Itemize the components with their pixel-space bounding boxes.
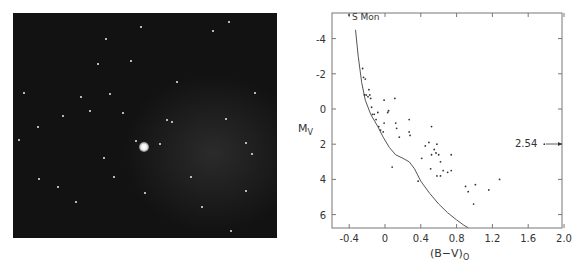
y-tick-label: 4 [320, 174, 326, 185]
color-magnitude-diagram: -0.400.40.81.21.62.0 -4-20246 S Mon 2.54… [290, 0, 580, 266]
star [97, 63, 99, 65]
star [130, 60, 132, 62]
y-axis-ticks: -4-20246 [316, 34, 562, 221]
nebula-haze [123, 73, 277, 233]
y-axis-label: MV [298, 122, 314, 137]
star [75, 201, 77, 203]
data-point [440, 161, 442, 163]
star [176, 81, 178, 83]
data-points [362, 68, 545, 205]
data-point [368, 89, 370, 91]
data-point [450, 170, 452, 172]
plot-frame [332, 13, 562, 228]
star [23, 92, 25, 94]
data-point [388, 110, 390, 112]
data-point [417, 180, 419, 182]
data-point [382, 131, 384, 133]
data-point [431, 126, 433, 128]
star [109, 93, 111, 95]
star [212, 30, 214, 32]
data-point [543, 143, 545, 145]
data-point [380, 129, 382, 131]
data-point [465, 186, 467, 188]
star [122, 112, 124, 114]
star [228, 21, 230, 23]
star [103, 157, 105, 159]
arrow-head-icon [558, 142, 562, 146]
bright-star-s-mon [139, 142, 149, 152]
annotation-s-mon: S Mon [352, 12, 380, 22]
data-point [433, 149, 435, 151]
star [245, 142, 247, 144]
data-point [440, 175, 442, 177]
data-point [499, 179, 501, 181]
data-point [373, 113, 375, 115]
star-field-photograph [13, 13, 277, 238]
data-point [438, 154, 440, 156]
star [89, 110, 91, 112]
x-tick-label: 0.8 [449, 233, 465, 244]
star [251, 153, 253, 155]
data-point [424, 145, 426, 147]
data-point [367, 96, 369, 98]
star [225, 118, 227, 120]
annotation-offscale: 2.54 [515, 138, 537, 149]
x-tick-label: 0.4 [413, 233, 429, 244]
data-point [364, 78, 366, 80]
data-point [363, 76, 365, 78]
data-point [378, 126, 380, 128]
data-point [435, 152, 437, 154]
x-tick-label: -0.4 [339, 233, 359, 244]
data-point [369, 94, 371, 96]
star [144, 192, 146, 194]
data-point [391, 166, 393, 168]
data-point [394, 98, 396, 100]
data-point [395, 122, 397, 124]
data-point [408, 119, 410, 121]
star [105, 38, 107, 40]
data-point [450, 154, 452, 156]
star [254, 92, 256, 94]
data-point [362, 68, 364, 70]
data-point [387, 112, 389, 114]
data-point [436, 143, 438, 145]
s-mon-point [348, 14, 350, 16]
star [135, 140, 137, 142]
data-point [383, 99, 385, 101]
x-tick-label: 2.0 [556, 233, 572, 244]
x-axis-label: (B−V)O [430, 247, 469, 262]
data-point [370, 98, 372, 100]
star [230, 230, 232, 232]
data-point [488, 189, 490, 191]
star [57, 186, 59, 188]
data-point [428, 142, 430, 144]
x-axis-ticks: -0.400.40.81.21.62.0 [339, 13, 572, 244]
zams-curve [356, 30, 469, 228]
star [166, 119, 168, 121]
star [80, 96, 82, 98]
star [245, 190, 247, 192]
data-point [375, 119, 377, 121]
y-tick-label: 6 [320, 210, 326, 221]
x-tick-label: 1.2 [484, 233, 500, 244]
y-tick-label: 2 [320, 139, 326, 150]
data-point [467, 191, 469, 193]
data-point [442, 170, 444, 172]
data-point [436, 175, 438, 177]
data-point [474, 184, 476, 186]
star [159, 143, 161, 145]
data-point [371, 106, 373, 108]
data-point [383, 122, 385, 124]
star [201, 206, 203, 208]
y-tick-label: -4 [316, 34, 326, 45]
data-point [408, 131, 410, 133]
data-point [364, 94, 366, 96]
star [18, 139, 20, 141]
star [62, 115, 64, 117]
x-tick-label: 0 [382, 233, 388, 244]
data-point [473, 203, 475, 205]
x-tick-label: 1.6 [520, 233, 536, 244]
data-point [409, 135, 411, 137]
star [140, 26, 142, 28]
data-point [447, 171, 449, 173]
